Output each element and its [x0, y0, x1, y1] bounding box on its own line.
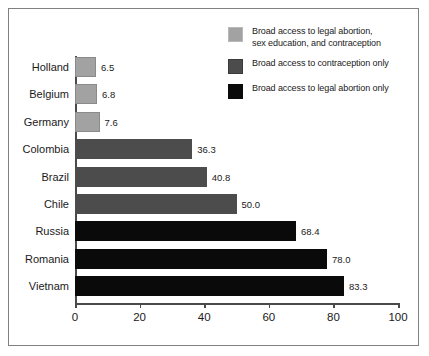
category-label-wrap: Germany	[0, 112, 69, 132]
category-label-wrap: Vietnam	[0, 276, 69, 296]
x-tick	[269, 303, 271, 308]
bar-value-label: 83.3	[349, 281, 368, 292]
bar-row: 68.4	[75, 221, 398, 241]
bar-vietnam	[75, 276, 344, 296]
category-label-brazil: Brazil	[41, 171, 69, 183]
bar-value-label: 7.6	[105, 116, 118, 127]
bar-value-label: 40.8	[212, 171, 231, 182]
x-tick	[398, 303, 400, 308]
x-axis-line	[75, 303, 398, 305]
x-tick	[75, 303, 77, 308]
x-tick-label: 100	[388, 311, 407, 323]
category-label-germany: Germany	[24, 116, 69, 128]
x-tick-label: 0	[72, 311, 78, 323]
bar-row: 78.0	[75, 249, 398, 269]
category-label-holland: Holland	[32, 61, 69, 73]
bar-row: 50.0	[75, 194, 398, 214]
category-label-wrap: Romania	[0, 249, 69, 269]
bar-holland	[75, 57, 96, 77]
plot-area: 6.56.87.636.340.850.068.478.083.3 Hollan…	[0, 0, 429, 356]
category-label-vietnam: Vietnam	[29, 280, 69, 292]
bar-value-label: 50.0	[242, 199, 261, 210]
x-tick	[204, 303, 206, 308]
category-label-chile: Chile	[44, 198, 69, 210]
x-tick-label: 40	[198, 311, 211, 323]
bar-germany	[75, 112, 100, 132]
bar-value-label: 6.5	[101, 62, 114, 73]
bar-row: 83.3	[75, 276, 398, 296]
category-label-wrap: Belgium	[0, 84, 69, 104]
bar-row: 6.5	[75, 57, 398, 77]
bar-value-label: 78.0	[332, 253, 351, 264]
bar-row: 36.3	[75, 139, 398, 159]
bar-row: 40.8	[75, 167, 398, 187]
chart-figure: Broad access to legal abortion, sex educ…	[0, 0, 429, 356]
bar-chile	[75, 194, 237, 214]
bar-russia	[75, 221, 296, 241]
x-tick	[140, 303, 142, 308]
category-label-romania: Romania	[25, 253, 69, 265]
x-tick	[333, 303, 335, 308]
bar-colombia	[75, 139, 192, 159]
x-tick-label: 80	[327, 311, 340, 323]
category-label-russia: Russia	[35, 225, 69, 237]
bar-value-label: 36.3	[197, 144, 216, 155]
bar-belgium	[75, 84, 97, 104]
bar-brazil	[75, 167, 207, 187]
bar-row: 6.8	[75, 84, 398, 104]
category-label-wrap: Chile	[0, 194, 69, 214]
bar-value-label: 68.4	[301, 226, 320, 237]
x-tick-label: 20	[133, 311, 146, 323]
category-label-belgium: Belgium	[29, 88, 69, 100]
category-label-wrap: Colombia	[0, 139, 69, 159]
category-label-wrap: Holland	[0, 57, 69, 77]
x-tick-label: 60	[262, 311, 275, 323]
category-label-colombia: Colombia	[23, 143, 69, 155]
bar-value-label: 6.8	[102, 89, 115, 100]
bar-romania	[75, 249, 327, 269]
bar-row: 7.6	[75, 112, 398, 132]
category-label-wrap: Russia	[0, 221, 69, 241]
category-label-wrap: Brazil	[0, 167, 69, 187]
